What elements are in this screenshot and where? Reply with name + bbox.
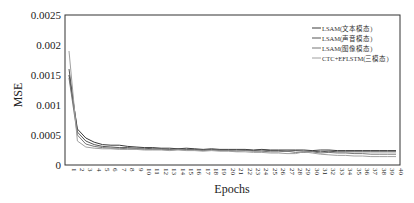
x-tick-label: 5 xyxy=(103,168,111,172)
legend-label: LSAM(文本模态) xyxy=(322,24,372,33)
x-tick-label: 33 xyxy=(338,168,346,176)
x-tick-label: 35 xyxy=(355,168,363,176)
x-tick-label: 12 xyxy=(162,168,170,176)
x-tick-label: 22 xyxy=(246,168,254,176)
x-tick-label: 16 xyxy=(195,168,203,176)
x-tick-label: 25 xyxy=(271,168,279,176)
y-tick-label: 0.0025 xyxy=(31,9,62,21)
x-tick-label: 2 xyxy=(78,168,86,172)
legend-label: CTC+EFLSTM(三模态) xyxy=(322,54,389,63)
x-axis-ticks: 1234567891011121314151617181920212223242… xyxy=(70,168,405,176)
x-tick-label: 31 xyxy=(321,168,329,176)
x-tick-label: 1 xyxy=(70,168,78,172)
x-tick-label: 34 xyxy=(346,168,354,176)
x-tick-label: 27 xyxy=(288,168,296,176)
x-tick-label: 3 xyxy=(86,168,94,172)
x-tick-label: 23 xyxy=(254,168,262,176)
legend-label: LSAM(声音模态) xyxy=(322,34,372,43)
y-axis-title: MSE xyxy=(11,83,25,108)
y-tick-label: 0 xyxy=(56,159,62,171)
x-axis-title: Epochs xyxy=(214,182,250,196)
x-tick-label: 17 xyxy=(204,168,212,176)
x-tick-label: 26 xyxy=(279,168,287,176)
x-tick-label: 11 xyxy=(153,168,161,175)
x-tick-label: 28 xyxy=(296,168,304,176)
x-tick-label: 9 xyxy=(137,168,145,172)
x-tick-label: 38 xyxy=(380,168,388,176)
x-tick-label: 20 xyxy=(229,168,237,176)
x-tick-label: 6 xyxy=(111,168,119,172)
y-tick-label: 0.001 xyxy=(36,99,61,111)
y-tick-label: 0.0005 xyxy=(31,129,62,141)
x-tick-label: 7 xyxy=(120,168,128,172)
x-tick-label: 32 xyxy=(329,168,337,176)
x-tick-label: 24 xyxy=(262,168,270,176)
y-tick-label: 0.002 xyxy=(36,39,61,51)
line-chart: 00.00050.0010.00150.0020.0025 1234567891… xyxy=(0,0,414,203)
y-tick-label: 0.0015 xyxy=(31,69,62,81)
legend-label: LSAM(图像模态) xyxy=(322,44,372,53)
x-tick-label: 4 xyxy=(95,168,103,172)
x-tick-label: 8 xyxy=(128,168,136,172)
x-tick-label: 29 xyxy=(304,168,312,176)
x-tick-label: 39 xyxy=(388,168,396,176)
x-tick-label: 10 xyxy=(145,168,153,176)
x-tick-label: 36 xyxy=(363,168,371,176)
x-tick-label: 37 xyxy=(371,168,379,176)
x-tick-label: 30 xyxy=(313,168,321,176)
x-tick-label: 13 xyxy=(170,168,178,176)
x-tick-label: 40 xyxy=(397,168,405,176)
x-tick-label: 15 xyxy=(187,168,195,176)
y-axis-ticks: 00.00050.0010.00150.0020.0025 xyxy=(31,9,62,171)
x-tick-label: 21 xyxy=(237,168,245,176)
x-tick-label: 14 xyxy=(179,168,187,176)
x-tick-label: 19 xyxy=(220,168,228,176)
x-tick-label: 18 xyxy=(212,168,220,176)
